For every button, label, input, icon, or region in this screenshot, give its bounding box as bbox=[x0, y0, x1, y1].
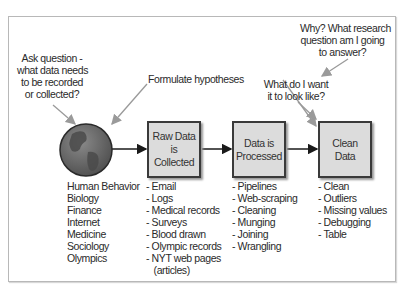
list-item: - Olympic records bbox=[146, 240, 221, 252]
list-item: - Debugging bbox=[318, 216, 387, 228]
list-item: - Munging bbox=[232, 216, 297, 228]
list-item: - Cleaning bbox=[232, 204, 297, 216]
list-item: Olympics bbox=[67, 252, 140, 264]
list-item: - Table bbox=[318, 228, 387, 240]
list-item: - Logs bbox=[146, 192, 221, 204]
box-label: Clean Data bbox=[332, 137, 357, 163]
list-item: - Missing values bbox=[318, 204, 387, 216]
list-raw-data: - Email - Logs - Medical records - Surve… bbox=[146, 180, 221, 276]
list-item: Human Behavior bbox=[67, 180, 140, 192]
list-clean: - Clean - Outliers - Missing values - De… bbox=[318, 180, 387, 240]
list-item: - Web-scraping bbox=[232, 192, 297, 204]
box-raw-data-collected: Raw Data is Collected bbox=[147, 121, 201, 178]
list-item: - Joining bbox=[232, 228, 297, 240]
list-item: - Email bbox=[146, 180, 221, 192]
list-item: Internet bbox=[67, 216, 140, 228]
list-item: Biology bbox=[67, 192, 140, 204]
list-item: - Surveys bbox=[146, 216, 221, 228]
box-data-processed: Data is Processed bbox=[232, 121, 286, 178]
list-domains: Human Behavior Biology Finance Internet … bbox=[67, 180, 140, 264]
box-label: Raw Data is Collected bbox=[149, 130, 199, 169]
list-item: - Clean bbox=[318, 180, 387, 192]
list-processed: - Pipelines - Web-scraping - Cleaning - … bbox=[232, 180, 297, 252]
list-item: - Wrangling bbox=[232, 240, 297, 252]
list-item: Medicine bbox=[67, 228, 140, 240]
list-item: Finance bbox=[67, 204, 140, 216]
list-item: - Blood drawn bbox=[146, 228, 221, 240]
list-item: - NYT web pages bbox=[146, 252, 221, 264]
list-item: Sociology bbox=[67, 240, 140, 252]
list-item: (articles) bbox=[146, 264, 221, 276]
list-item: - Pipelines bbox=[232, 180, 297, 192]
list-item: - Medical records bbox=[146, 204, 221, 216]
box-label: Data is Processed bbox=[236, 137, 282, 163]
list-item: - Outliers bbox=[318, 192, 387, 204]
box-clean-data: Clean Data bbox=[318, 121, 372, 178]
